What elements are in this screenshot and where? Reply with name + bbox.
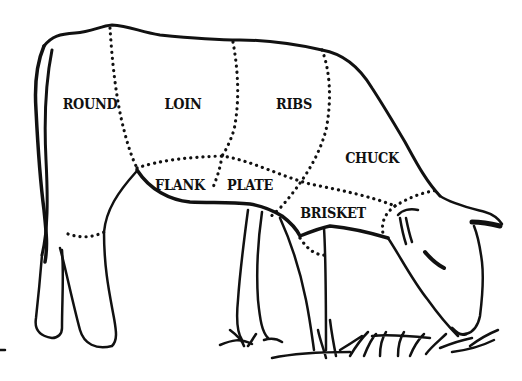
grass xyxy=(0,320,498,358)
cow-hind-leg-front xyxy=(60,172,136,347)
cut-label-chuck: CHUCK xyxy=(343,150,401,166)
cow-neck-underside xyxy=(388,238,458,336)
cut-label-ribs: RIBS xyxy=(275,96,314,112)
cow-eye xyxy=(425,252,444,268)
cut-label-round: ROUND xyxy=(60,96,119,112)
cut-line-hind-shank xyxy=(68,232,104,237)
cow-face-outline xyxy=(466,226,483,334)
cow-ear-left xyxy=(398,209,418,244)
cut-label-brisket: BRISKET xyxy=(297,205,368,221)
cow-ear-right xyxy=(472,222,500,226)
cow-tail xyxy=(42,50,52,255)
cut-line-loin-ribs xyxy=(222,42,238,156)
cow-front-leg-rear xyxy=(237,210,268,340)
beef-cuts-diagram: ROUND LOIN RIBS CHUCK FLANK PLATE BRISKE… xyxy=(0,0,522,381)
cut-line-flank-plate xyxy=(212,156,222,190)
cut-label-loin: LOIN xyxy=(163,96,203,112)
cut-label-flank: FLANK xyxy=(153,177,207,193)
cut-line-brisket-neck xyxy=(382,206,395,238)
cut-line-ribs-chuck xyxy=(268,50,329,218)
cut-label-plate: PLATE xyxy=(225,177,275,193)
cut-line-chuck-head xyxy=(395,190,440,206)
cow-hind-leg-back xyxy=(36,250,63,338)
